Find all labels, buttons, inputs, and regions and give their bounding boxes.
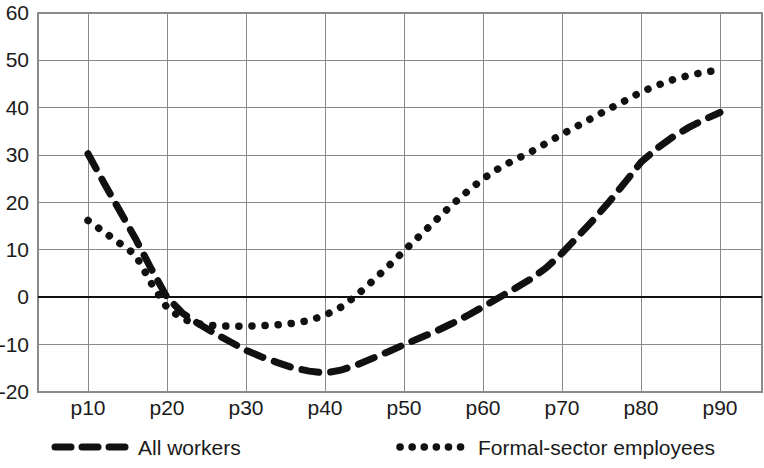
x-tick-label: p60 [465, 396, 500, 419]
y-tick-label: 30 [6, 143, 29, 166]
y-tick-label: -10 [0, 333, 29, 356]
y-tick-label: 0 [17, 285, 29, 308]
x-tick-label: p50 [386, 396, 421, 419]
x-tick-label: p90 [702, 396, 737, 419]
y-tick-label: -20 [0, 380, 29, 403]
x-tick-label: p20 [149, 396, 184, 419]
x-tick-label: p40 [307, 396, 342, 419]
legend-label-all-workers: All workers [138, 436, 241, 459]
x-tick-label: p80 [623, 396, 658, 419]
x-tick-label: p70 [544, 396, 579, 419]
y-tick-label: 60 [6, 1, 29, 24]
x-axis-tick-labels: p10p20p30p40p50p60p70p80p90 [70, 396, 737, 419]
y-tick-label: 20 [6, 191, 29, 214]
x-tick-label: p10 [70, 396, 105, 419]
line-chart: -20-100102030405060 p10p20p30p40p50p60p7… [0, 0, 764, 468]
legend-label-formal-sector-employees: Formal-sector employees [478, 436, 715, 459]
x-tick-label: p30 [228, 396, 263, 419]
y-tick-label: 10 [6, 238, 29, 261]
y-tick-label: 40 [6, 96, 29, 119]
y-tick-label: 50 [6, 48, 29, 71]
chart-container: -20-100102030405060 p10p20p30p40p50p60p7… [0, 0, 764, 468]
